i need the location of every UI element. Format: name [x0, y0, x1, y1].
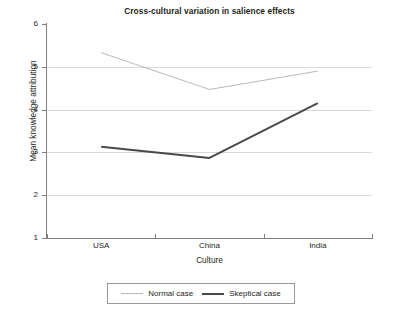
legend-label-normal-case: Normal case: [148, 289, 193, 298]
series-line-skeptical-case: [101, 103, 318, 158]
chart-figure: Cross-cultural variation in salience eff…: [0, 0, 398, 317]
legend-line-icon-normal-case: [121, 293, 143, 294]
chart-legend: Normal case Skeptical case: [107, 283, 295, 304]
series-lines: [0, 0, 398, 317]
legend-line-icon-skeptical-case: [202, 293, 224, 295]
series-line-normal-case: [101, 53, 318, 90]
legend-item-skeptical-case: Skeptical case: [202, 289, 281, 298]
legend-label-skeptical-case: Skeptical case: [229, 289, 281, 298]
legend-item-normal-case: Normal case: [121, 289, 193, 298]
